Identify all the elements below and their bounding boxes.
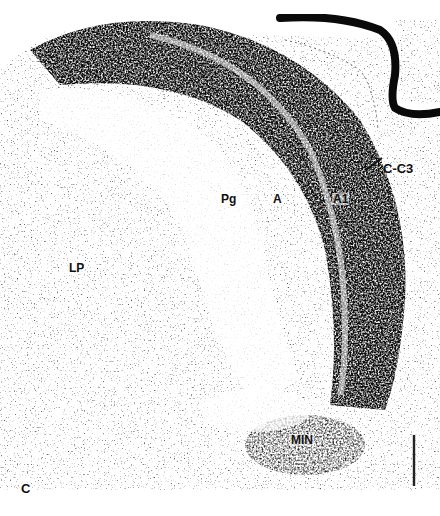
panel-letter: C [20, 482, 31, 495]
pale-region [200, 388, 310, 432]
label-min: MIN [290, 434, 314, 446]
label-a1: A1 [332, 193, 349, 205]
nissl-stained-section [0, 0, 440, 516]
label-c-c3: C-C3 [382, 162, 414, 175]
label-a: A [272, 193, 283, 205]
histology-micrograph: Pg A A1 C-C3 LP MIN C [0, 0, 440, 516]
label-pg: Pg [220, 193, 237, 205]
label-lp: LP [68, 262, 85, 274]
